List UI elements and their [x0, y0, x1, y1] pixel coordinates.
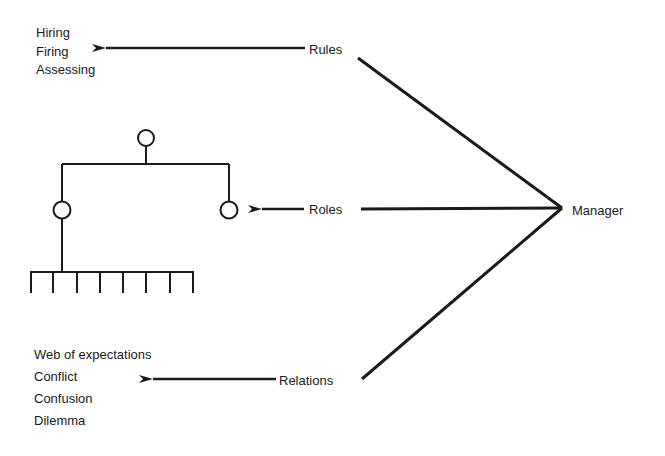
relations-targets-list: Web of expectations Conflict Confusion D… [34, 344, 152, 432]
org-bottom-units [31, 272, 193, 293]
rules-label: Rules [309, 42, 342, 57]
org-node-top [138, 130, 154, 146]
org-chart-icon [30, 130, 238, 293]
rules-target-item: Hiring [36, 24, 95, 43]
rules-target-item: Assessing [36, 61, 95, 80]
relations-target-item: Web of expectations [34, 344, 152, 366]
relations-target-item: Confusion [34, 388, 152, 410]
roles-label: Roles [309, 202, 342, 217]
rules-targets-list: Hiring Firing Assessing [36, 24, 95, 80]
org-node-left [54, 202, 71, 219]
connector-roles [361, 208, 562, 209]
arrows [106, 48, 305, 379]
manager-connectors [358, 58, 562, 379]
rules-target-item: Firing [36, 43, 95, 62]
connector-relations [362, 208, 562, 379]
manager-label: Manager [572, 203, 623, 218]
relations-target-item: Dilemma [34, 410, 152, 432]
org-node-right [221, 202, 238, 219]
relations-label: Relations [279, 373, 333, 388]
relations-target-item: Conflict [34, 366, 152, 388]
connector-rules [358, 58, 562, 208]
